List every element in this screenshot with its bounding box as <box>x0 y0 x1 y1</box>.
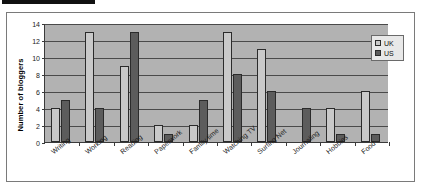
bar-uk-paperwork <box>154 125 163 142</box>
chart-frame: Number of bloggers 02468101214 WritingWo… <box>6 12 415 182</box>
x-axis-tick <box>217 142 218 146</box>
bar-uk-food <box>361 91 370 142</box>
bar-uk-writing <box>51 108 60 142</box>
y-axis-tick <box>42 143 45 144</box>
legend-label-uk: UK <box>384 40 394 47</box>
y-axis-tick-label: 6 <box>36 89 40 96</box>
x-axis-tick <box>148 142 149 146</box>
x-axis-tick <box>251 142 252 146</box>
x-axis-tick <box>286 142 287 146</box>
x-axis-tick <box>389 142 390 146</box>
bar-uk-watching-tv <box>223 32 232 143</box>
y-axis-tick-label: 10 <box>32 55 40 62</box>
bar-uk-family-time <box>189 125 198 142</box>
x-axis-tick <box>114 142 115 146</box>
x-axis-tick <box>320 142 321 146</box>
x-axis-tick <box>355 142 356 146</box>
bar-group <box>148 24 182 142</box>
bar-group <box>79 24 113 142</box>
bar-uk-reading <box>120 66 129 143</box>
legend-item-uk: UK <box>375 38 400 48</box>
bar-uk-hobbies <box>326 108 335 142</box>
bar-group <box>217 24 251 142</box>
legend-swatch-uk-icon <box>375 40 381 46</box>
bar-group <box>45 24 79 142</box>
y-axis-tick-label: 12 <box>32 38 40 45</box>
y-axis-tick-label: 0 <box>36 140 40 147</box>
y-axis-tick-label: 8 <box>36 72 40 79</box>
bar-uk-working <box>85 32 94 143</box>
top-black-marker-bar <box>2 0 95 4</box>
x-axis-tick <box>183 142 184 146</box>
chart-legend: UK US <box>371 35 404 61</box>
bar-group <box>320 24 354 142</box>
bar-uk-surfing-net <box>257 49 266 143</box>
plot-area: 02468101214 <box>44 24 388 143</box>
y-axis-tick-label: 2 <box>36 123 40 130</box>
legend-label-us: US <box>384 50 394 57</box>
legend-item-us: US <box>375 48 400 58</box>
legend-swatch-us-icon <box>375 50 381 56</box>
bar-group <box>183 24 217 142</box>
bar-us-watching-tv <box>233 74 242 142</box>
bar-group <box>251 24 285 142</box>
bar-group <box>114 24 148 142</box>
bar-group <box>286 24 320 142</box>
y-axis-tick-label: 4 <box>36 106 40 113</box>
x-axis-tick <box>79 142 80 146</box>
bar-us-reading <box>130 32 139 143</box>
y-axis-title: Number of bloggers <box>15 36 26 154</box>
y-axis-tick-label: 14 <box>32 21 40 28</box>
